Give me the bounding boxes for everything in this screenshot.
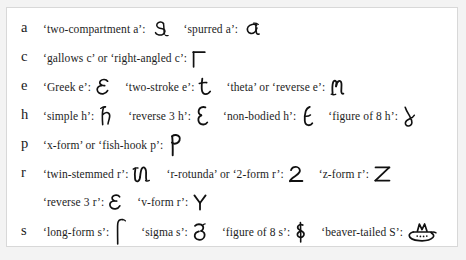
letterform-entry: ‘figure of 8 h’: [328,101,417,130]
row-entries: ‘simple h’:‘reverse 3 h’:‘non-bodied h’:… [43,101,451,130]
letterform-entry-label: ‘two-compartment a’: [43,23,146,35]
theta-reverse-e-glyph-icon [329,76,346,98]
row-letter-label: r [21,159,43,186]
row-letter-label: a [21,14,43,41]
figure-of-8-h-glyph-icon [402,104,417,129]
letterform-entry-label: ‘reverse 3 h’: [128,110,191,122]
letterform-entry: ‘simple h’: [43,101,114,130]
v-form-r-glyph-icon [192,192,208,212]
row-entries: ‘x-form’ or ‘fish-hook p’: [43,130,451,159]
letterform-row-e: e‘Greek e’:‘two-stroke e’:‘theta’ or ‘re… [7,72,457,101]
letterform-row-r-continued: ‘reverse 3 r’:‘v-form r’: [7,188,457,217]
letterform-row-s: s‘long-form s’:‘sigma s’:‘figure of 8 s’… [7,217,457,247]
row-letter-label: e [21,72,43,99]
row-letter-label: s [21,217,43,244]
fish-hook-p-glyph-icon [167,132,183,158]
palaeography-letterform-panel: a‘two-compartment a’:‘spurred a’:c‘gallo… [6,7,458,247]
r-rotunda-glyph-icon [288,164,305,184]
letterform-entry: ‘r-rotunda’ or ‘2-form r’: [166,159,304,188]
z-form-r-glyph-icon [373,164,392,184]
row-letter-label: c [21,43,43,70]
letterform-row-a: a‘two-compartment a’:‘spurred a’: [7,14,457,43]
letterform-entry: ‘two-stroke e’: [125,72,213,101]
letterform-entry-label: ‘twin-stemmed r’: [43,168,128,180]
reverse-3-h-glyph-icon [195,104,209,128]
letterform-entry-label: ‘non-bodied h’: [223,110,296,122]
letterform-entry: ‘v-form r’: [137,188,208,215]
letterform-entry-label: ‘gallows c’ or ‘right-angled c’: [43,52,187,64]
non-bodied-h-glyph-icon [300,104,314,128]
letterform-entry-label: ‘Greek e’: [43,81,91,93]
letterform-entry-label: ‘reverse 3 r’: [43,196,104,208]
letterform-row-p: p‘x-form’ or ‘fish-hook p’: [7,130,457,159]
long-form-s-glyph-icon [113,217,127,247]
letterform-entry: ‘sigma s’: [141,217,208,246]
letterform-entry-label: ‘long-form s’: [43,226,109,238]
letterform-entry-label: ‘z-form r’: [319,168,369,180]
sigma-s-glyph-icon [192,221,208,243]
letterform-entry: ‘Greek e’: [43,72,111,101]
letterform-entry-label: ‘v-form r’: [137,196,188,208]
simple-h-glyph-icon [98,104,114,128]
letterform-entry: ‘reverse 3 r’: [43,188,123,215]
row-letter-label: h [21,101,43,128]
letterform-entry: ‘gallows c’ or ‘right-angled c’: [43,43,207,72]
letterform-entry-label: ‘theta’ or ‘reverse e’: [226,81,325,93]
twin-stemmed-r-glyph-icon [132,163,152,185]
two-compartment-a-glyph-icon [150,18,170,40]
letterform-row-c: c‘gallows c’ or ‘right-angled c’: [7,43,457,72]
letterform-row-h: h‘simple h’:‘reverse 3 h’:‘non-bodied h’… [7,101,457,130]
letterform-row-r: r‘twin-stemmed r’:‘r-rotunda’ or ‘2-form… [7,159,457,188]
spurred-a-glyph-icon [242,19,262,39]
letterform-entry: ‘figure of 8 s’: [222,217,307,246]
greek-e-glyph-icon [95,76,111,98]
row-entries: ‘long-form s’:‘sigma s’:‘figure of 8 s’:… [43,217,451,247]
letterform-entry-label: ‘spurred a’: [184,23,239,35]
letterform-entry-label: ‘figure of 8 s’: [222,226,290,238]
reverse-3-r-glyph-icon [108,192,123,213]
row-entries-continued: ‘reverse 3 r’:‘v-form r’: [43,188,451,215]
letterform-entry: ‘theta’ or ‘reverse e’: [226,72,346,101]
letterform-entry: ‘reverse 3 h’: [128,101,209,130]
row-entries: ‘Greek e’:‘two-stroke e’:‘theta’ or ‘rev… [43,72,451,101]
letterform-entry-label: ‘x-form’ or ‘fish-hook p’: [43,139,163,151]
letterform-row-list: a‘two-compartment a’:‘spurred a’:c‘gallo… [7,14,457,247]
letterform-entry: ‘beaver-tailed S’: [321,217,437,246]
letterform-entry: ‘z-form r’: [319,159,392,188]
beaver-tailed-s-glyph-icon [407,221,437,243]
gallows-c-glyph-icon [191,48,207,68]
letterform-entry: ‘two-compartment a’: [43,14,170,43]
letterform-entry-label: ‘figure of 8 h’: [328,110,398,122]
letterform-entry: ‘spurred a’: [184,14,263,43]
figure-of-8-s-glyph-icon [294,221,307,244]
letterform-entry: ‘non-bodied h’: [223,101,314,130]
letterform-entry-label: ‘r-rotunda’ or ‘2-form r’: [166,168,283,180]
row-entries: ‘twin-stemmed r’:‘r-rotunda’ or ‘2-form … [43,159,451,188]
letterform-entry-label: ‘sigma s’: [141,226,188,238]
letterform-entry: ‘long-form s’: [43,217,127,247]
letterform-entry-label: ‘two-stroke e’: [125,81,195,93]
letterform-entry: ‘x-form’ or ‘fish-hook p’: [43,130,183,159]
row-entries: ‘gallows c’ or ‘right-angled c’: [43,43,451,72]
letterform-entry: ‘twin-stemmed r’: [43,159,152,188]
row-letter-label: p [21,130,43,157]
two-stroke-e-glyph-icon [198,76,212,98]
letterform-entry-label: ‘beaver-tailed S’: [321,226,403,238]
letterform-entry-label: ‘simple h’: [43,110,94,122]
row-entries: ‘two-compartment a’:‘spurred a’: [43,14,451,43]
